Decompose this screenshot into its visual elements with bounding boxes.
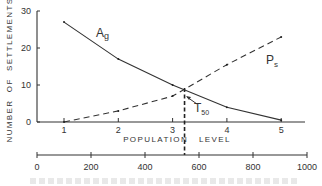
data-point [226,106,228,108]
settlement-chart: 0102030 12345 Ag Ps T50 POPULATION LEVEL… [0,0,322,186]
y-axis-title: NUMBER OF SETTLEMENTS [5,0,14,143]
data-point [280,119,282,121]
secondary-x-tick-label: 1000 [297,162,317,172]
x-ticks: 12345 [61,118,283,135]
figure-caption-illegible [30,178,300,184]
secondary-x-tick-label: 0 [34,162,39,172]
x-tick-label: 5 [279,125,284,135]
data-point [117,110,119,112]
data-point [63,121,65,123]
y-tick-label: 30 [21,6,31,16]
x-tick-label: 4 [224,125,229,135]
t50-label: T50 [194,101,209,116]
secondary-x-tick-label: 800 [245,162,260,172]
secondary-x-tick-label: 400 [137,162,152,172]
data-point [63,21,65,23]
x-tick-label: 2 [116,125,121,135]
y-tick-label: 0 [26,117,31,127]
y-tick-label: 10 [21,80,31,90]
secondary-x-tick-label: 600 [191,162,206,172]
data-point [172,84,174,86]
data-point [117,58,119,60]
x-axis-title: POPULATION LEVEL [123,135,231,144]
y-tick-label: 20 [21,43,31,53]
series-label-ps: Ps [266,53,278,69]
data-point [172,95,174,97]
secondary-x-tick-label: 200 [83,162,98,172]
series-label-ag: Ag [96,26,109,41]
x-tick-label: 1 [61,125,66,135]
data-point [280,36,282,38]
x-tick-label: 3 [170,125,175,135]
series-ps-line [64,37,281,122]
data-point [226,64,228,66]
